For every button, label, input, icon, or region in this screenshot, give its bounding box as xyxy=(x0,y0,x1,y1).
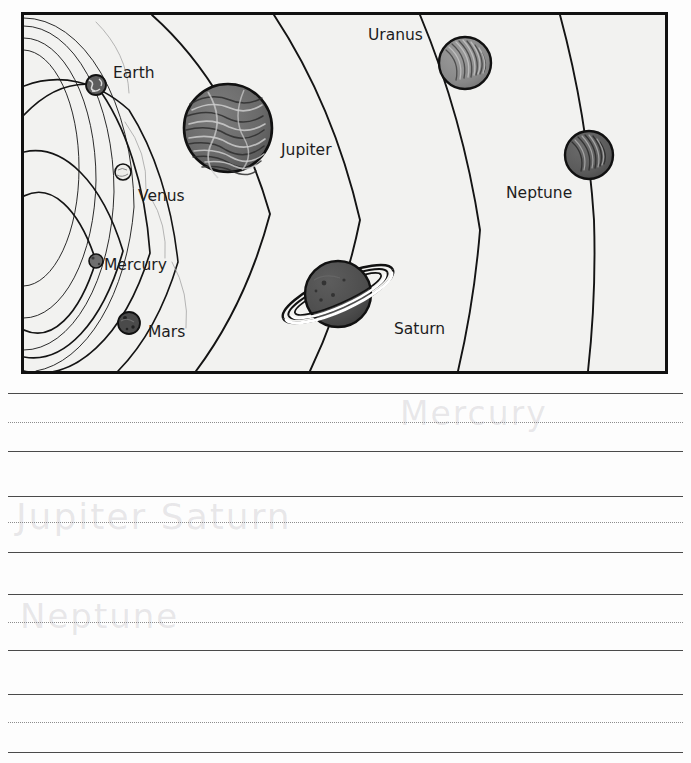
label-neptune: Neptune xyxy=(506,184,572,202)
rule-mid-line xyxy=(8,522,683,523)
handwriting-smudge xyxy=(18,396,30,431)
planet-mars xyxy=(118,312,140,334)
rule-top-line xyxy=(8,393,683,394)
rule-mid-line xyxy=(8,622,683,623)
rule-baseline xyxy=(8,552,683,553)
label-saturn: Saturn xyxy=(394,320,445,338)
rule-top-line xyxy=(8,496,683,497)
planet-mercury xyxy=(89,254,103,268)
label-mercury: Mercury xyxy=(104,256,167,274)
rule-baseline xyxy=(8,650,683,651)
rule-mid-line xyxy=(8,422,683,423)
label-venus: Venus xyxy=(138,187,185,205)
rule-top-line xyxy=(8,594,683,595)
planet-earth xyxy=(86,75,106,95)
diagram-canvas: Earth Venus Mercury Mars Jupiter Saturn … xyxy=(0,0,691,386)
planet-neptune xyxy=(565,131,613,179)
solar-system-diagram: Earth Venus Mercury Mars Jupiter Saturn … xyxy=(0,0,691,386)
handwriting-practice-area: Mercury Jupiter Saturn Neptune xyxy=(0,386,691,763)
rule-top-line xyxy=(8,694,683,695)
rule-baseline xyxy=(8,752,683,753)
rule-mid-line xyxy=(8,722,683,723)
label-mars: Mars xyxy=(148,323,185,341)
handwriting-entry: Neptune xyxy=(20,596,179,636)
worksheet-page: Earth Venus Mercury Mars Jupiter Saturn … xyxy=(0,0,691,763)
label-earth: Earth xyxy=(113,64,155,82)
planet-uranus xyxy=(439,37,491,89)
planet-venus xyxy=(115,164,131,180)
rule-baseline xyxy=(8,451,683,452)
handwriting-entry: Mercury xyxy=(400,394,548,433)
label-uranus: Uranus xyxy=(368,26,423,44)
label-jupiter: Jupiter xyxy=(280,141,332,159)
handwriting-entry: Jupiter Saturn xyxy=(16,496,292,537)
